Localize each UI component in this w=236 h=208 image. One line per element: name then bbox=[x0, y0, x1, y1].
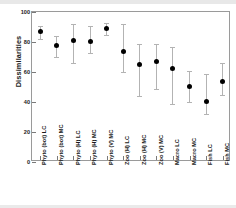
y-axis-tick-label: 80 bbox=[24, 39, 30, 45]
error-bar-cap-lower bbox=[187, 102, 192, 103]
x-axis-label: Fish LC bbox=[207, 144, 213, 165]
y-axis-tick-label: 0 bbox=[27, 159, 30, 165]
x-axis-label: Phyto (bot) LC bbox=[41, 126, 47, 165]
y-axis-tick: 100 bbox=[32, 12, 36, 13]
data-marker bbox=[104, 26, 109, 31]
y-axis-tick: 20 bbox=[32, 132, 36, 133]
error-bar-cap-lower bbox=[71, 63, 76, 64]
error-bar-cap-lower bbox=[204, 114, 209, 115]
error-bar-cap-upper bbox=[121, 24, 126, 25]
x-axis-label: Fish MC bbox=[224, 143, 230, 165]
error-bar-cap-upper bbox=[88, 26, 93, 27]
scan-band-bottom bbox=[0, 205, 236, 208]
y-axis-title: Dissimilarities bbox=[14, 7, 23, 117]
error-bar-cap-lower bbox=[154, 89, 159, 90]
y-axis-tick: 40 bbox=[32, 102, 36, 103]
error-bar-cap-upper bbox=[187, 71, 192, 72]
error-bar-cap-upper bbox=[38, 26, 43, 27]
y-axis-tick-label: 40 bbox=[24, 99, 30, 105]
error-bar-line bbox=[73, 24, 74, 63]
data-marker bbox=[38, 29, 43, 34]
error-bar-cap-upper bbox=[54, 36, 59, 37]
data-marker bbox=[187, 84, 192, 89]
error-bar-cap-lower bbox=[220, 95, 225, 96]
error-bar-cap-upper bbox=[204, 74, 209, 75]
figure: Dissimilarities 020406080100 Phyto (bot)… bbox=[0, 0, 236, 208]
x-axis-label: Zoo (H) LC bbox=[124, 136, 130, 165]
error-bar-cap-lower bbox=[38, 39, 43, 40]
error-bar-line bbox=[206, 74, 207, 115]
data-marker bbox=[121, 49, 126, 54]
y-axis-tick-label: 100 bbox=[21, 9, 30, 15]
error-bar-cap-upper bbox=[220, 63, 225, 64]
error-bar-cap-lower bbox=[170, 104, 175, 105]
error-bar-cap-lower bbox=[121, 72, 126, 73]
y-axis-tick-label: 20 bbox=[24, 129, 30, 135]
data-marker bbox=[220, 79, 225, 84]
data-marker bbox=[54, 43, 59, 48]
error-bar-line bbox=[139, 44, 140, 97]
error-bar-cap-lower bbox=[54, 57, 59, 58]
error-bar-cap-upper bbox=[154, 44, 159, 45]
y-axis-tick: 0 bbox=[32, 162, 36, 163]
error-bar-line bbox=[156, 44, 157, 89]
error-bar-cap-lower bbox=[88, 53, 93, 54]
x-axis-label: Zoo (V) MC bbox=[158, 135, 164, 165]
scan-band-top bbox=[0, 0, 236, 4]
data-marker bbox=[170, 66, 175, 71]
data-marker bbox=[71, 38, 76, 43]
error-bar-line bbox=[172, 47, 173, 105]
x-axis-label: Phyto (V) MC bbox=[108, 130, 114, 165]
error-bar-cap-lower bbox=[104, 35, 109, 36]
error-bar-cap-upper bbox=[170, 47, 175, 48]
error-bar-cap-upper bbox=[137, 44, 142, 45]
data-marker bbox=[88, 39, 93, 44]
x-axis-label: Zoo (H) MC bbox=[141, 135, 147, 165]
x-axis-label: Macro LC bbox=[174, 139, 180, 165]
data-marker bbox=[154, 59, 159, 64]
y-axis-tick: 60 bbox=[32, 72, 36, 73]
y-axis-tick: 80 bbox=[32, 42, 36, 43]
error-bar-cap-lower bbox=[137, 96, 142, 97]
y-axis-tick-label: 60 bbox=[24, 69, 30, 75]
x-axis-label: Phyto (H) LC bbox=[75, 131, 81, 165]
x-axis-label: Phyto (bot) MC bbox=[58, 125, 64, 165]
data-marker bbox=[204, 99, 209, 104]
x-axis-label: Phyto (H) MC bbox=[91, 129, 97, 165]
error-bar-cap-upper bbox=[71, 24, 76, 25]
data-marker bbox=[137, 62, 142, 67]
x-axis-label: Macro MC bbox=[191, 138, 197, 165]
error-bar-cap-upper bbox=[104, 23, 109, 24]
